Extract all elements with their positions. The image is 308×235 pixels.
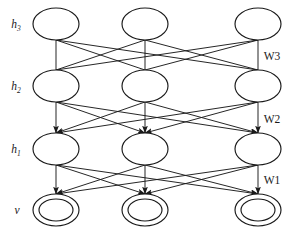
edge-group-w1	[56, 165, 258, 194]
node-h1-3	[235, 133, 281, 165]
network-graph: h3h2h1v W3W2W1	[0, 0, 308, 235]
node-v-1-inner-ring	[39, 199, 73, 221]
node-h2-3	[235, 70, 281, 102]
weight-label-w3: W3	[264, 50, 281, 62]
node-h2-1	[33, 70, 79, 102]
node-group-v	[33, 194, 281, 226]
node-h1-2	[122, 133, 168, 165]
weight-label-group: W3W2W1	[264, 50, 281, 186]
node-group-h2	[33, 70, 281, 102]
node-h3-2	[122, 8, 168, 40]
layer-label-h2: h2	[11, 80, 21, 95]
weight-label-w1: W1	[264, 174, 281, 186]
edge-group-w2	[56, 102, 258, 133]
node-h3-3	[235, 8, 281, 40]
node-v-2-inner-ring	[128, 199, 162, 221]
node-group-h3	[33, 8, 281, 40]
dbn-diagram: h3h2h1v W3W2W1	[0, 0, 308, 235]
layer-label-group: h3h2h1v	[11, 18, 21, 216]
node-h3-1	[33, 8, 79, 40]
node-v-3-inner-ring	[241, 199, 275, 221]
layer-label-v: v	[14, 204, 20, 216]
node-h2-2	[122, 70, 168, 102]
layer-label-h1: h1	[11, 143, 21, 158]
node-h1-1	[33, 133, 79, 165]
layer-label-h3: h3	[11, 18, 21, 33]
edge-group-w3	[56, 40, 258, 70]
weight-label-w2: W2	[264, 113, 281, 125]
node-group-h1	[33, 133, 281, 165]
